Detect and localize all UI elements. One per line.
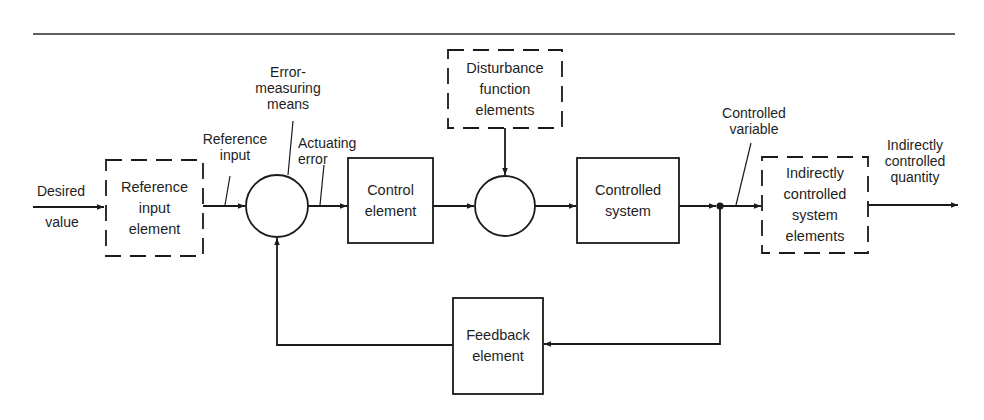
label-reference-input: Reference input bbox=[190, 131, 280, 163]
reference-input-leader bbox=[225, 176, 230, 205]
actuating-error-leader bbox=[320, 165, 324, 205]
disturbance-function-elements-label: Disturbance function elements bbox=[448, 50, 562, 128]
controlled-system-label: Controlled system bbox=[577, 158, 679, 243]
disturbance-summing-circle bbox=[475, 176, 535, 236]
label-desired: Desired bbox=[31, 183, 91, 199]
error-measuring-leader bbox=[288, 121, 293, 175]
label-value: value bbox=[36, 214, 88, 230]
feedback-path-out bbox=[277, 238, 453, 345]
feedback-element-label: Feedback element bbox=[453, 298, 543, 394]
error-measuring-circle bbox=[246, 175, 308, 237]
control-element-label: Control element bbox=[348, 158, 433, 243]
controlled-variable-leader bbox=[736, 143, 751, 205]
reference-input-element-label: Reference input element bbox=[106, 160, 203, 256]
indirectly-controlled-system-elements-label: Indirectly controlled system elements bbox=[762, 157, 868, 253]
label-controlled-variable: Controlled variable bbox=[712, 105, 796, 137]
label-error-measuring-means: Error- measuring means bbox=[248, 64, 328, 112]
label-indirectly-controlled-quantity: Indirectly controlled quantity bbox=[872, 137, 958, 185]
